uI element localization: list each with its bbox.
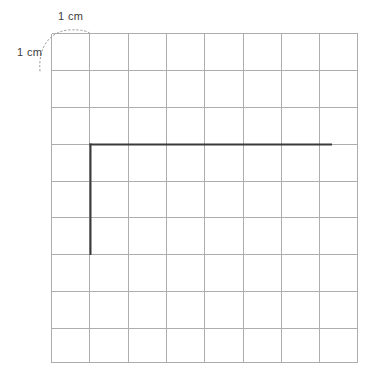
- l-shape-path: [91, 145, 332, 255]
- grid-svg: [0, 0, 371, 375]
- unit-width-label: 1 cm: [58, 11, 83, 22]
- grid-figure: 1 cm 1 cm: [0, 0, 371, 375]
- unit-cell-dotted-arc: [40, 30, 90, 71]
- unit-height-label: 1 cm: [17, 47, 42, 58]
- grid-lines: [52, 34, 358, 363]
